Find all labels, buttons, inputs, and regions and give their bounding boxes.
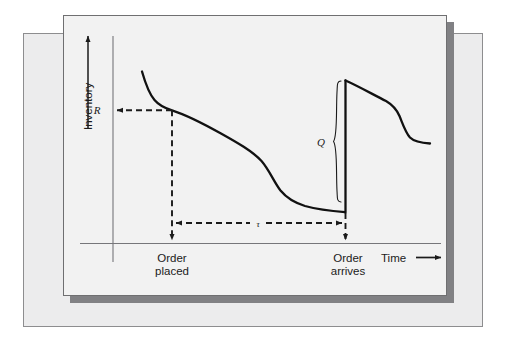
- reorder-point-label: R: [93, 104, 101, 116]
- order-placed-label-line1: Order: [157, 252, 187, 264]
- inventory-time-chart: Inventory Time R τ Q Order placed Order …: [0, 0, 508, 347]
- x-axis-label: Time: [381, 252, 406, 264]
- order-arrives-label-line1: Order: [333, 252, 363, 264]
- order-quantity-label: Q: [317, 136, 325, 148]
- post-replenishment-curve: [346, 81, 431, 144]
- figure-root: Inventory Time R τ Q Order placed Order …: [0, 0, 508, 347]
- lead-time-label: τ: [256, 219, 260, 229]
- order-placed-label-line2: placed: [155, 265, 189, 277]
- y-axis-label: Inventory: [82, 82, 94, 130]
- order-quantity-brace: [334, 81, 342, 202]
- order-arrives-label-line2: arrives: [331, 265, 366, 277]
